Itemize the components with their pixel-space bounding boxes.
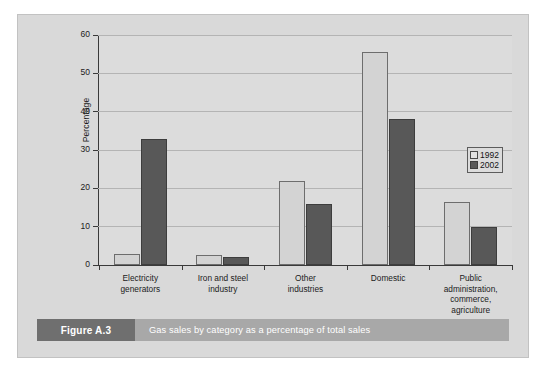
x-tick: [429, 265, 430, 270]
legend-item-2002: 2002: [470, 160, 499, 170]
y-tick-label-20: 20: [68, 183, 90, 192]
y-tick-label-50: 50: [68, 68, 90, 77]
figure-caption-block: Gas sales by category as a percentage of…: [135, 319, 509, 341]
y-tick-40: [93, 111, 98, 112]
y-tick-0: [93, 265, 98, 266]
x-tick: [512, 265, 513, 270]
x-tick: [347, 265, 348, 270]
bar-group: [99, 35, 182, 265]
y-tick-label-40: 40: [68, 107, 90, 116]
y-tick-label-10: 10: [68, 222, 90, 231]
y-axis-title: Percentage: [81, 60, 91, 180]
legend-label-2002: 2002: [480, 161, 499, 170]
y-tick-10: [93, 226, 98, 227]
y-tick-label-0: 0: [68, 260, 90, 269]
bar-1992: [279, 181, 305, 265]
bar-group: [264, 35, 347, 265]
figure-caption-label: Gas sales by category as a percentage of…: [149, 325, 370, 335]
y-tick-30: [93, 150, 98, 151]
bar-1992: [362, 52, 388, 265]
figure-number-block: Figure A.3: [37, 319, 135, 341]
x-tick: [99, 265, 100, 270]
y-tick-label-60: 60: [68, 30, 90, 39]
y-tick-20: [93, 188, 98, 189]
bar-2002: [306, 204, 332, 265]
x-tick: [264, 265, 265, 270]
bar-2002: [141, 139, 167, 266]
chart-legend: 1992 2002: [467, 147, 503, 173]
y-tick-label-30: 30: [68, 145, 90, 154]
figure-number-label: Figure A.3: [61, 325, 112, 336]
y-tick-50: [93, 73, 98, 74]
x-axis-category-label: Publicadministration,commerce,agricultur…: [421, 273, 520, 315]
x-tick: [182, 265, 183, 270]
bar-2002: [471, 227, 497, 265]
bar-2002: [389, 119, 415, 265]
legend-label-1992: 1992: [480, 151, 499, 160]
legend-swatch-1992: [470, 151, 478, 159]
bar-group: [347, 35, 430, 265]
y-tick-60: [93, 35, 98, 36]
legend-item-1992: 1992: [470, 150, 499, 160]
bar-1992: [196, 255, 222, 265]
bar-1992: [114, 254, 140, 266]
chart-plot-region: Percentage 0102030405060 Electricitygene…: [68, 35, 512, 265]
figure-panel: Percentage 0102030405060 Electricitygene…: [17, 14, 529, 358]
figure-caption-bar: Figure A.3 Gas sales by category as a pe…: [37, 319, 509, 341]
legend-swatch-2002: [470, 161, 478, 169]
bar-1992: [444, 202, 470, 265]
bar-group: [182, 35, 265, 265]
bar-2002: [223, 257, 249, 265]
bars-layer: [99, 35, 512, 265]
